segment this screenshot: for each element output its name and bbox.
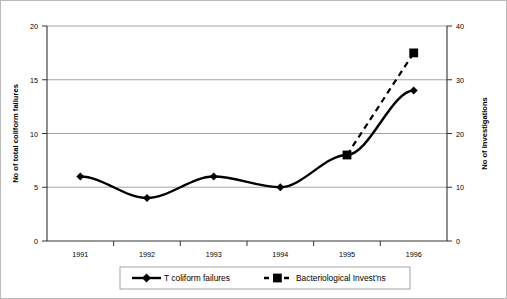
left-axis-ticks xyxy=(42,26,47,241)
left-tick-10: 10 xyxy=(30,130,38,139)
left-tick-5: 5 xyxy=(34,183,38,192)
x-axis-ticks xyxy=(114,241,381,246)
right-tick-10: 10 xyxy=(456,183,464,192)
left-tick-0: 0 xyxy=(34,237,38,246)
x-tick-1994: 1994 xyxy=(272,250,288,259)
chart-legend: T coliform failures Bacteriological Inve… xyxy=(120,267,410,289)
legend-label-1: T coliform failures xyxy=(164,273,230,283)
right-tick-20: 20 xyxy=(456,130,464,139)
chart-svg: 20 15 10 5 0 40 30 20 10 0 1991 1992 199… xyxy=(1,1,506,298)
x-tick-1991: 1991 xyxy=(72,250,88,259)
right-axis-title: No of Investigations xyxy=(480,97,489,170)
left-tick-20: 20 xyxy=(30,22,38,31)
x-tick-1996: 1996 xyxy=(406,250,422,259)
legend-square-icon xyxy=(273,274,282,283)
right-tick-30: 30 xyxy=(456,76,464,85)
x-tick-1992: 1992 xyxy=(139,250,155,259)
x-tick-1995: 1995 xyxy=(339,250,355,259)
left-tick-15: 15 xyxy=(30,76,38,85)
right-axis-ticks xyxy=(447,26,452,241)
legend-item-t-coliform-failures[interactable]: T coliform failures xyxy=(132,273,230,283)
x-tick-1993: 1993 xyxy=(206,250,222,259)
series-2-marker xyxy=(409,49,418,58)
right-tick-40: 40 xyxy=(456,22,464,31)
right-tick-0: 0 xyxy=(456,237,460,246)
left-axis-title: No of total coliform failures xyxy=(11,84,20,183)
chart-figure: 20 15 10 5 0 40 30 20 10 0 1991 1992 199… xyxy=(0,0,507,299)
legend-label-2: Bacteriological Invest'ns xyxy=(296,273,386,283)
